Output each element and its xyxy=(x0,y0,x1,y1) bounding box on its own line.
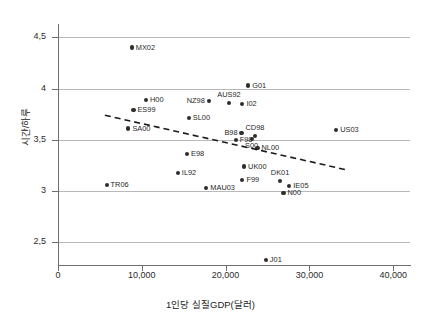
x-tick-label: 10,000 xyxy=(112,270,172,280)
data-point-label: E98 xyxy=(191,150,204,158)
data-point xyxy=(207,99,211,103)
data-point-label: SA00 xyxy=(132,125,150,133)
data-point-label: I02 xyxy=(246,100,256,108)
data-point-label: J01 xyxy=(270,256,282,264)
x-tick-label: 0 xyxy=(28,270,88,280)
data-point xyxy=(204,186,208,190)
x-tick-label: 30,000 xyxy=(279,270,339,280)
data-point xyxy=(234,138,238,142)
data-point xyxy=(105,183,109,187)
data-point-label: B98 xyxy=(224,129,237,137)
x-axis-title: 1인당 실질GDP(달러) xyxy=(0,297,421,311)
data-point xyxy=(264,258,268,262)
data-point-label: NL00 xyxy=(261,144,279,152)
data-point xyxy=(242,164,246,168)
data-point-label: AUS92 xyxy=(217,91,240,99)
scatter-chart: 2,533,544,5 010,00020,00030,00040,000 MX… xyxy=(0,0,421,324)
data-point xyxy=(131,108,135,112)
data-point-label: H00 xyxy=(150,96,164,104)
y-tick-label: 3 xyxy=(18,186,46,195)
data-point xyxy=(144,98,148,102)
data-point-label: ES99 xyxy=(137,106,155,114)
data-point xyxy=(334,128,338,132)
data-point xyxy=(227,101,231,105)
data-point xyxy=(240,178,244,182)
data-point-label: US03 xyxy=(340,126,359,134)
y-tick-label: 4,5 xyxy=(18,32,46,41)
data-point-label: DK01 xyxy=(271,169,290,177)
data-point xyxy=(281,191,285,195)
data-point xyxy=(185,152,189,156)
data-point xyxy=(240,102,244,106)
data-point-label: MAU03 xyxy=(210,184,235,192)
y-tick-label: 2,5 xyxy=(18,237,46,246)
data-point-label: SL00 xyxy=(193,114,210,122)
data-point xyxy=(187,116,191,120)
data-point xyxy=(278,179,282,183)
data-point xyxy=(130,45,134,49)
data-point-label: F99 xyxy=(246,176,259,184)
data-point-label: N00 xyxy=(287,189,301,197)
data-point-label: IL92 xyxy=(182,169,196,177)
data-point xyxy=(246,83,250,87)
data-point xyxy=(126,126,130,130)
x-tick-label: 40,000 xyxy=(363,270,421,280)
y-axis-title: 시간/하루 xyxy=(18,82,32,172)
data-point xyxy=(176,171,180,175)
data-point-label: UK00 xyxy=(248,163,267,171)
data-point xyxy=(255,146,259,150)
data-point-label: G01 xyxy=(252,82,266,90)
data-point-label: NZ98 xyxy=(187,97,205,105)
data-point-label: TR06 xyxy=(111,181,129,189)
data-point-label: MX02 xyxy=(136,44,155,52)
x-axis-spine xyxy=(58,265,411,266)
data-points-layer: MX02G01H00NZ98AUS92I02ES99SL00SA00US03B9… xyxy=(58,25,410,265)
data-point-label: CD98 xyxy=(245,124,264,132)
x-tick-label: 20,000 xyxy=(196,270,256,280)
